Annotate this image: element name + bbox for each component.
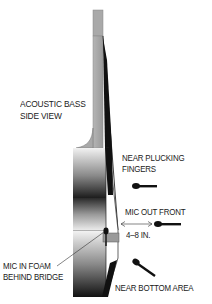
near-plucking-label: NEAR PLUCKING FINGERS — [122, 153, 184, 175]
near-bottom-label: NEAR BOTTOM AREA — [115, 283, 193, 294]
mic-out-front-label: MIC OUT FRONT — [125, 207, 185, 218]
mic-in-foam-label: MIC IN FOAM BEHIND BRIDGE — [3, 261, 63, 283]
mic-in-foam-line-1: MIC IN FOAM — [3, 261, 63, 272]
near-bottom-mic-icon — [131, 257, 155, 276]
near-plucking-line-1: NEAR PLUCKING — [122, 153, 184, 164]
acoustic-bass-diagram: ACOUSTIC BASS SIDE VIEW NEAR PLUCKING FI… — [0, 0, 212, 304]
near-plucking-mic-icon — [132, 183, 157, 189]
title-label: ACOUSTIC BASS SIDE VIEW — [20, 98, 86, 122]
mic-out-front-icon — [154, 221, 181, 227]
title-line-1: ACOUSTIC BASS — [20, 98, 86, 110]
distance-label: 4–8 IN. — [126, 230, 150, 241]
bass-body — [73, 148, 118, 297]
distance-arrow-icon — [121, 222, 152, 227]
bass-illustration — [0, 0, 212, 304]
headstock — [93, 10, 103, 36]
near-plucking-line-2: FINGERS — [122, 164, 184, 175]
mic-in-foam-line-2: BEHIND BRIDGE — [3, 272, 63, 283]
neck — [76, 36, 112, 148]
title-line-2: SIDE VIEW — [20, 110, 86, 122]
